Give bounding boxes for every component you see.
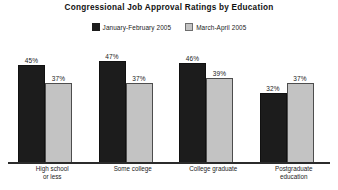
category-label-line: education: [258, 173, 331, 181]
bar-groups: 45%37%47%37%46%39%32%37%: [8, 40, 330, 163]
category-label: College graduate: [169, 165, 250, 189]
bar-value-label: 39%: [206, 70, 233, 77]
bar-wrap: 32%: [260, 40, 287, 163]
bar-group: 32%37%: [250, 40, 331, 163]
bar-value-label: 46%: [179, 55, 206, 62]
legend-label-series-1: January-February 2005: [103, 24, 172, 31]
legend-item-series-1: January-February 2005: [92, 23, 172, 31]
bar-value-label: 37%: [126, 75, 153, 82]
category-label-line: College graduate: [177, 165, 250, 173]
bar-series-1: [99, 61, 126, 163]
chart-legend: January-February 2005 March-April 2005: [0, 23, 338, 31]
legend-swatch-icon-series-1: [92, 23, 100, 31]
bar-group: 47%37%: [89, 40, 170, 163]
bar-series-1: [260, 93, 287, 163]
bar-series-2: [206, 78, 233, 163]
bar-wrap: 37%: [45, 40, 72, 163]
bar-group: 46%39%: [169, 40, 250, 163]
bar-series-2: [126, 83, 153, 163]
category-label-line: Postgraduate: [258, 165, 331, 173]
bar-wrap: 39%: [206, 40, 233, 163]
plot-area: 45%37%47%37%46%39%32%37%: [0, 40, 338, 164]
x-axis-category-labels: High schoolor lessSome collegeCollege gr…: [8, 165, 330, 189]
chart-container: Congressional Job Approval Ratings by Ed…: [0, 0, 338, 190]
bar-series-2: [45, 83, 72, 163]
bar-series-2: [287, 83, 314, 163]
bar-value-label: 37%: [287, 75, 314, 82]
bar-value-label: 37%: [45, 75, 72, 82]
legend-swatch-icon-series-2: [185, 23, 193, 31]
bar-wrap: 46%: [179, 40, 206, 163]
category-label: High schoolor less: [8, 165, 89, 189]
bar-wrap: 37%: [126, 40, 153, 163]
bar-value-label: 45%: [18, 57, 45, 64]
bar-value-label: 47%: [99, 53, 126, 60]
chart-title: Congressional Job Approval Ratings by Ed…: [0, 3, 338, 12]
legend-label-series-2: March-April 2005: [196, 24, 246, 31]
bar-wrap: 45%: [18, 40, 45, 163]
category-label: Some college: [89, 165, 170, 189]
bar-series-1: [179, 63, 206, 163]
bar-group: 45%37%: [8, 40, 89, 163]
category-label: Postgraduateeducation: [250, 165, 331, 189]
bar-value-label: 32%: [260, 85, 287, 92]
bar-wrap: 37%: [287, 40, 314, 163]
bar-series-1: [18, 65, 45, 163]
category-label-line: or less: [16, 173, 89, 181]
category-label-line: High school: [16, 165, 89, 173]
bar-wrap: 47%: [99, 40, 126, 163]
category-label-line: Some college: [97, 165, 170, 173]
legend-item-series-2: March-April 2005: [185, 23, 246, 31]
x-axis-baseline: [8, 162, 330, 164]
